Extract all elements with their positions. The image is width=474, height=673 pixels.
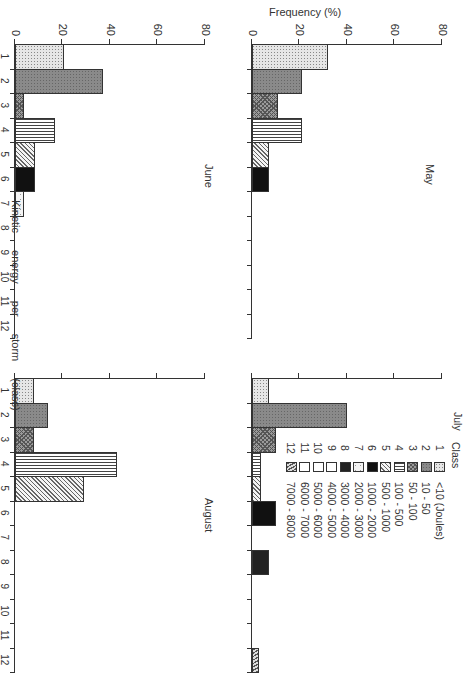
legend-swatch-icon — [313, 462, 324, 472]
y-axis — [252, 378, 442, 379]
legend-class-number: 4 — [394, 440, 406, 456]
x-tick — [10, 550, 15, 551]
y-tick-label: 80 — [200, 12, 212, 36]
legend-class-number: 10 — [313, 440, 325, 456]
y-tick — [157, 39, 158, 44]
y-tick — [62, 373, 63, 378]
legend-range-label: 2000 - 3000 — [353, 482, 365, 538]
x-tick-label: 2 — [0, 408, 10, 422]
legend-item-class-11: 116000 - 7000 — [299, 440, 311, 538]
y-tick — [346, 373, 347, 378]
y-tick-label: 60 — [153, 12, 165, 36]
bar-may-class-4 — [252, 118, 302, 144]
legend: July Class 1<10 (Joules)210 - 50350 - 10… — [272, 440, 462, 640]
y-tick-label: 40 — [342, 12, 354, 36]
legend-range-label: 3000 - 4000 — [340, 482, 352, 538]
bar-may-class-5 — [252, 142, 269, 168]
x-tick — [247, 623, 252, 624]
bar-july-class-2 — [252, 403, 347, 429]
legend-swatch-icon — [421, 462, 432, 472]
legend-item-class-9: 94000 - 5000 — [326, 440, 338, 538]
legend-range-label: 500 - 1000 — [380, 482, 392, 532]
y-tick — [394, 39, 395, 44]
legend-class-number: 12 — [286, 440, 298, 456]
bar-august-class-5 — [15, 476, 84, 502]
legend-range-label: 10 - 50 — [421, 482, 433, 515]
x-tick-label: 7 — [0, 196, 10, 210]
x-tick-label: 12 — [0, 653, 10, 667]
legend-item-class-10: 105000 - 6000 — [313, 440, 325, 538]
x-tick-label: 12 — [0, 319, 10, 333]
legend-swatch-icon — [354, 462, 365, 472]
bar-may-class-6 — [252, 167, 269, 193]
bar-june-class-2 — [15, 69, 103, 95]
x-tick-label: 3 — [0, 98, 10, 112]
legend-item-class-2: 210 - 50 — [421, 440, 433, 515]
x-tick-label: 8 — [0, 221, 10, 235]
y-tick — [204, 39, 205, 44]
x-tick — [10, 648, 15, 649]
legend-range-label: <10 (Joules) — [434, 482, 446, 540]
bar-july-class-5 — [252, 476, 262, 502]
legend-swatch-icon — [286, 462, 297, 472]
y-tick — [109, 39, 110, 44]
x-tick-label: 1 — [0, 49, 10, 63]
x-tick — [10, 599, 15, 600]
x-tick-label: 7 — [0, 530, 10, 544]
legend-swatch-icon — [367, 462, 378, 472]
y-tick — [299, 373, 300, 378]
panel-title-august: August — [203, 498, 215, 532]
x-tick-label: 11 — [0, 628, 10, 642]
x-axis-label: Kinetic energy per storm (class) — [10, 200, 22, 411]
y-tick — [441, 373, 442, 378]
bar-june-class-3 — [15, 93, 25, 119]
legend-item-class-4: 4100 - 500 — [394, 440, 406, 526]
legend-swatch-icon — [340, 462, 351, 472]
x-tick-label: 4 — [0, 123, 10, 137]
y-tick-label: 20 — [295, 12, 307, 36]
legend-item-class-3: 350 - 100 — [407, 440, 419, 521]
legend-item-class-12: 127000 - 8000 — [286, 440, 298, 538]
legend-class-number: 1 — [434, 440, 446, 456]
legend-range-label: 7000 - 8000 — [286, 482, 298, 538]
bar-june-class-1 — [15, 44, 64, 70]
x-tick-label: 11 — [0, 294, 10, 308]
x-tick — [10, 623, 15, 624]
x-tick — [247, 289, 252, 290]
x-tick-label: 9 — [0, 245, 10, 259]
legend-class-number: 3 — [407, 440, 419, 456]
legend-item-class-1: 1<10 (Joules) — [434, 440, 446, 540]
bar-may-class-1 — [252, 44, 328, 70]
bar-august-class-4 — [15, 452, 117, 478]
y-tick — [109, 373, 110, 378]
bar-july-class-1 — [252, 378, 269, 404]
y-tick-label: 20 — [58, 12, 70, 36]
bar-july-class-8 — [252, 550, 269, 576]
y-tick-label: 0 — [10, 12, 22, 36]
legend-class-number: 11 — [299, 440, 311, 456]
bar-july-class-4 — [252, 452, 262, 478]
x-tick — [247, 599, 252, 600]
x-tick — [10, 525, 15, 526]
panel-august: August123456789101112 — [0, 334, 237, 668]
bar-july-class-12 — [252, 648, 259, 673]
y-tick — [441, 39, 442, 44]
x-tick-label: 10 — [0, 270, 10, 284]
legend-swatch-icon — [394, 462, 405, 472]
x-tick-label: 8 — [0, 555, 10, 569]
panel-may: May020406080 — [237, 0, 474, 334]
panel-title-june: June — [203, 164, 215, 188]
legend-class-number: 8 — [340, 440, 352, 456]
legend-item-class-5: 5500 - 1000 — [380, 440, 392, 532]
x-tick-label: 6 — [0, 506, 10, 520]
legend-class-number: 2 — [421, 440, 433, 456]
x-tick-label: 6 — [0, 172, 10, 186]
legend-title: July Class — [450, 442, 462, 468]
y-tick — [204, 373, 205, 378]
panel-title-may: May — [424, 164, 436, 185]
panel-june: June020406080123456789101112 — [0, 0, 237, 334]
x-tick-label: 2 — [0, 74, 10, 88]
y-axis — [15, 378, 205, 379]
bar-august-class-3 — [15, 427, 34, 453]
